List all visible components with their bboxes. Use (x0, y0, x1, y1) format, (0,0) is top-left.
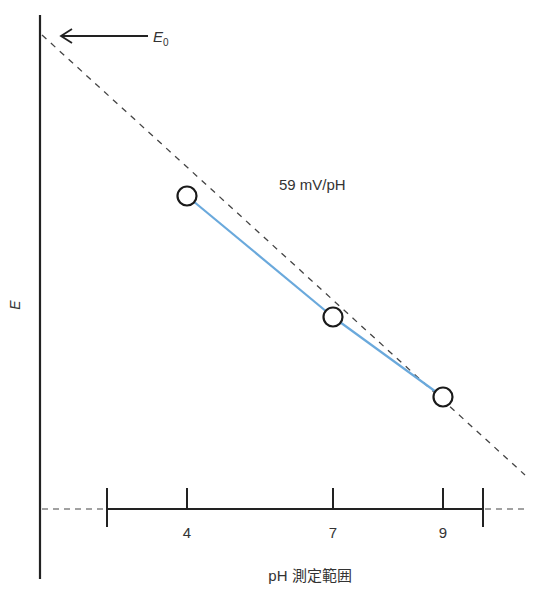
x-tick-label-9: 9 (439, 524, 447, 541)
y-axis-label: E (7, 300, 23, 310)
data-point-ph-7 (324, 308, 343, 327)
x-tick-label-4: 4 (183, 524, 191, 541)
x-axis-label: pH 測定範囲 (268, 567, 351, 584)
ph-electrode-diagram: 479 E0 59 mV/pH E pH 測定範囲 (0, 0, 539, 595)
measured-line-segment (333, 317, 443, 397)
x-tick-label-7: 7 (329, 524, 337, 541)
nernst-dashed-line (42, 35, 525, 475)
measured-line-segment (187, 196, 333, 317)
data-point-ph-4 (178, 187, 197, 206)
e0-label: E0 (153, 28, 169, 48)
data-point-ph-9 (434, 388, 453, 407)
slope-label: 59 mV/pH (279, 176, 346, 193)
